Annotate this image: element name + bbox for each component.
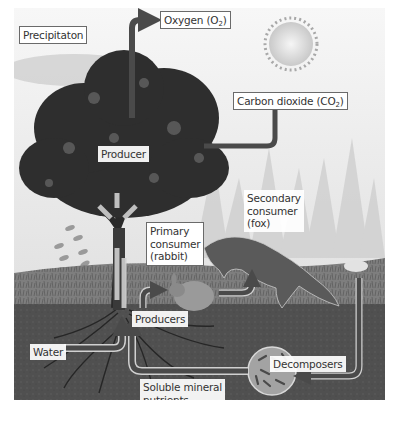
distant-animal — [344, 260, 368, 272]
label-carbon-dioxide: Carbon dioxide (CO2) — [233, 92, 348, 110]
primary-consumer-line-1: Primary — [150, 225, 200, 238]
label-decomposers: Decomposers — [270, 356, 346, 372]
diagram-artwork — [14, 8, 385, 400]
label-producer: Producer — [98, 146, 149, 162]
label-producers: Producers — [132, 311, 188, 327]
primary-consumer-line-2: consumer — [150, 238, 200, 251]
label-precipitation: Precipitaton — [19, 26, 87, 44]
label-oxygen: Oxygen (O2) — [160, 11, 231, 29]
secondary-consumer-line-3: (fox) — [247, 217, 301, 230]
label-soluble-mineral-nutrients: Soluble mineral nutrients — [140, 379, 225, 400]
secondary-consumer-line-1: Secondary — [247, 192, 301, 205]
secondary-consumer-line-2: consumer — [247, 205, 301, 218]
label-secondary-consumer: Secondary consumer (fox) — [244, 190, 304, 232]
primary-consumer-line-3: (rabbit) — [150, 250, 200, 263]
label-water: Water — [30, 344, 66, 360]
soluble-line-1: Soluble mineral — [143, 381, 222, 394]
soluble-line-2: nutrients — [143, 394, 222, 401]
ecosystem-diagram: Precipitaton Oxygen (O2) Carbon dioxide … — [14, 8, 385, 400]
label-primary-consumer: Primary consumer (rabbit) — [146, 222, 204, 266]
